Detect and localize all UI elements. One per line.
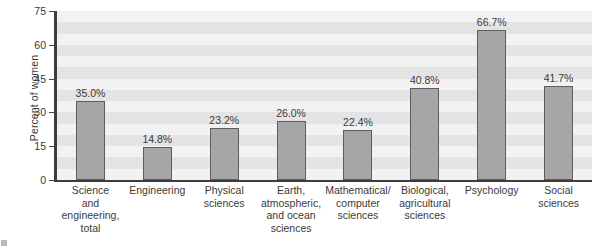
y-axis-tick-labels: 01530456075: [22, 0, 46, 252]
corner-artifact: [1, 240, 7, 246]
bar: [410, 88, 439, 180]
y-tick-label-75: 75: [34, 5, 46, 17]
x-category-label: Psychology: [453, 184, 530, 197]
bar: [544, 86, 573, 180]
bar: [143, 147, 172, 180]
bar-value-label: 35.0%: [76, 87, 106, 99]
bar: [76, 101, 105, 180]
bar-value-label: 41.7%: [544, 72, 574, 84]
y-tick-label-60: 60: [34, 39, 46, 51]
x-axis-line: [54, 180, 592, 182]
bar: [210, 128, 239, 180]
bar-value-label: 14.8%: [142, 133, 172, 145]
bar-value-label: 26.0%: [276, 107, 306, 119]
x-category-label: Engineering: [119, 184, 196, 197]
bar: [277, 121, 306, 180]
x-category-label: Physicalsciences: [186, 184, 263, 209]
y-tick-label-0: 0: [40, 174, 46, 186]
x-category-label: Biological,agriculturalsciences: [386, 184, 463, 222]
bar: [343, 130, 372, 180]
bar: [477, 30, 506, 180]
bar-chart: Percent of women 01530456075 35.0%14.8%2…: [0, 0, 603, 252]
bar-value-label: 22.4%: [343, 116, 373, 128]
y-tick-label-15: 15: [34, 140, 46, 152]
x-category-label: Scienceandengineering,total: [52, 184, 129, 234]
x-category-label: Socialsciences: [520, 184, 597, 209]
bar-value-label: 66.7%: [477, 16, 507, 28]
x-category-label: Mathematical/computersciences: [320, 184, 397, 222]
y-tick-label-30: 30: [34, 106, 46, 118]
x-axis-category-labels: Scienceandengineering,totalEngineeringPh…: [57, 184, 592, 252]
bar-series: 35.0%14.8%23.2%26.0%22.4%40.8%66.7%41.7%: [57, 11, 592, 180]
x-category-label: Earth,atmospheric,and oceansciences: [253, 184, 330, 234]
y-tick-label-45: 45: [34, 73, 46, 85]
bar-value-label: 40.8%: [410, 74, 440, 86]
bar-value-label: 23.2%: [209, 114, 239, 126]
